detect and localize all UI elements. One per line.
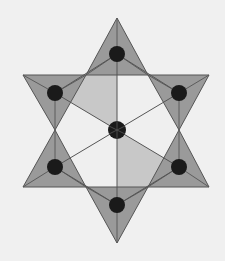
atom-top — [109, 46, 125, 62]
atom-upper-left — [47, 85, 63, 101]
hexagram-diagram — [0, 0, 225, 261]
atom-lower-right — [171, 159, 187, 175]
atom-upper-right — [171, 85, 187, 101]
atom-bottom — [109, 197, 125, 213]
atom-lower-left — [47, 159, 63, 175]
